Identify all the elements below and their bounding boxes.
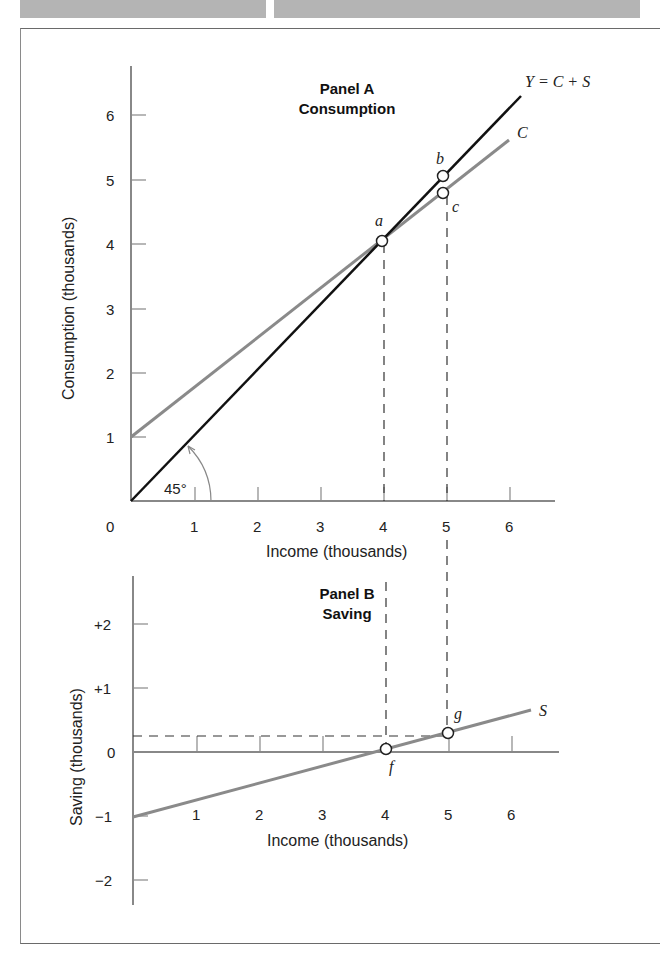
y-tick-label: −2 <box>95 872 112 889</box>
panel-b: +2 +1 0 −1 −2 1 2 3 4 5 6 Income (thousa… <box>68 576 559 905</box>
y-tick-label: 3 <box>106 301 114 318</box>
y-tick-label: 6 <box>106 107 114 124</box>
panel-b-x-axis-label: Income (thousands) <box>267 832 408 849</box>
x-tick-label: 2 <box>255 806 263 823</box>
y-tick-label: +2 <box>94 616 111 633</box>
panel-a: 1 2 3 4 5 6 0 1 2 3 4 5 6 Income (thousa… <box>60 66 590 560</box>
panel-a-y-axis-label: Consumption (thousands) <box>60 217 77 400</box>
angle-arc <box>188 446 211 501</box>
x-tick-label: 5 <box>442 518 450 535</box>
panel-b-subtitle: Saving <box>322 605 371 622</box>
origin-label: 0 <box>106 518 114 535</box>
income-line-label: Y = C + S <box>525 73 590 90</box>
x-tick-label: 3 <box>318 806 326 823</box>
x-tick-label: 1 <box>190 518 198 535</box>
saving-line <box>133 710 531 817</box>
panel-b-title: Panel B <box>319 585 374 602</box>
point-g-label: g <box>454 705 462 723</box>
y-tick-label: 1 <box>106 429 114 446</box>
point-c-label: c <box>452 198 459 215</box>
y-tick-label: 5 <box>106 172 114 189</box>
point-b-label: b <box>436 150 444 167</box>
consumption-line <box>131 140 509 437</box>
y-tick-label: 2 <box>106 365 114 382</box>
point-f-label: f <box>389 758 396 776</box>
x-tick-label: 4 <box>379 518 387 535</box>
x-tick-label: 1 <box>192 806 200 823</box>
x-tick-label: 6 <box>507 806 515 823</box>
income-45deg-line <box>131 96 521 501</box>
panel-b-y-axis-label: Saving (thousands) <box>68 688 85 826</box>
point-b <box>438 171 449 182</box>
x-tick-label: 6 <box>505 518 513 535</box>
y-tick-label: −1 <box>95 808 112 825</box>
panel-a-subtitle: Consumption <box>299 100 396 117</box>
x-tick-label: 4 <box>381 806 389 823</box>
panel-a-x-axis-label: Income (thousands) <box>266 543 407 560</box>
x-tick-label: 2 <box>253 518 261 535</box>
saving-line-label: S <box>539 702 547 719</box>
y-tick-label: 0 <box>107 744 115 761</box>
point-f <box>381 744 392 755</box>
point-a-label: a <box>375 212 383 229</box>
panel-a-title: Panel A <box>320 80 375 97</box>
point-a <box>377 236 388 247</box>
angle-label: 45° <box>164 480 187 497</box>
point-c <box>438 188 449 199</box>
x-tick-label: 5 <box>444 806 452 823</box>
consumption-line-label: C <box>517 124 528 141</box>
y-tick-label: +1 <box>94 680 111 697</box>
point-g <box>443 728 454 739</box>
x-tick-label: 3 <box>316 518 324 535</box>
y-tick-label: 4 <box>106 236 114 253</box>
